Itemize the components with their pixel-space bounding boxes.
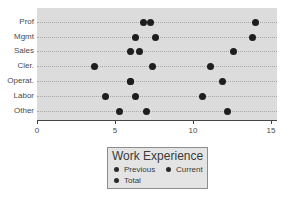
dot-marker-icon [114, 178, 119, 183]
category-label: Labor [14, 91, 34, 101]
x-tick-label: 0 [27, 126, 47, 135]
x-tick-label: 10 [183, 126, 203, 135]
category-gridline [37, 66, 277, 67]
legend-item-current: Current [166, 165, 203, 174]
data-point-current [152, 34, 159, 41]
data-point-previous [132, 34, 139, 41]
x-axis [37, 120, 277, 121]
data-point-current [127, 78, 134, 85]
x-tick [37, 120, 38, 124]
dot-marker-icon [114, 167, 119, 172]
data-point-previous [116, 108, 123, 115]
data-point-current [132, 93, 139, 100]
category-label: Operat. [7, 76, 34, 86]
data-point-previous [127, 48, 134, 55]
data-point-previous [91, 63, 98, 70]
x-tick [271, 120, 272, 124]
category-label: Cler. [18, 61, 34, 71]
legend-title: Work Experience [112, 149, 203, 163]
category-label: Mgmt [14, 32, 34, 42]
legend-item-total: Total [114, 176, 141, 185]
category-gridline [37, 96, 277, 97]
data-point-total [219, 78, 226, 85]
x-tick-label: 15 [261, 126, 281, 135]
data-point-current [147, 19, 154, 26]
data-point-total [207, 63, 214, 70]
category-gridline [37, 81, 277, 82]
legend-item-previous: Previous [114, 165, 155, 174]
dot-marker-icon [166, 167, 171, 172]
plot-area [37, 8, 277, 120]
category-label: Sales [14, 46, 34, 56]
x-tick [193, 120, 194, 124]
data-point-previous [102, 93, 109, 100]
data-point-current [149, 63, 156, 70]
category-gridline [37, 22, 277, 23]
data-point-total [199, 93, 206, 100]
data-point-current [136, 48, 143, 55]
category-label: Prof [19, 17, 34, 27]
x-tick [115, 120, 116, 124]
category-gridline [37, 51, 277, 52]
data-point-total [224, 108, 231, 115]
category-label: Other [14, 106, 34, 116]
data-point-current [143, 108, 150, 115]
data-point-previous [140, 19, 147, 26]
data-point-total [252, 19, 259, 26]
legend-label: Current [176, 165, 203, 174]
data-point-total [249, 34, 256, 41]
legend: Work Experience Previous Current Total [107, 147, 208, 189]
data-point-total [230, 48, 237, 55]
legend-label: Total [124, 176, 141, 185]
x-tick-label: 5 [105, 126, 125, 135]
category-gridline [37, 111, 277, 112]
legend-label: Previous [124, 165, 155, 174]
